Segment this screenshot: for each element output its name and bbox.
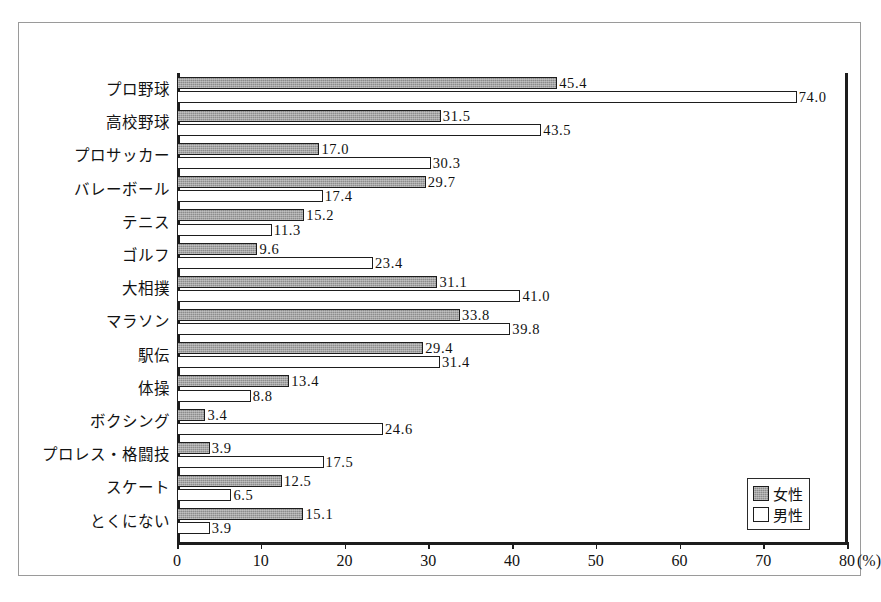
bar-value-label: 31.1: [439, 273, 467, 290]
x-tick-mark: [177, 542, 179, 549]
bar-value-label: 6.5: [233, 487, 253, 504]
bar-value-label: 3.9: [212, 520, 232, 537]
bar-value-label: 17.0: [321, 140, 349, 157]
x-tick-mark: [847, 542, 849, 549]
x-tick-label: 40: [504, 552, 520, 570]
x-tick-label: 0: [173, 552, 181, 570]
bar-value-label: 15.2: [306, 207, 334, 224]
bar-value-label: 12.5: [284, 472, 312, 489]
bar-row: 体操13.48.8: [177, 373, 849, 406]
bar-value-label: 45.4: [559, 74, 587, 91]
bar-value-label: 8.8: [253, 387, 273, 404]
category-label: とくにない: [20, 511, 170, 533]
bar-value-label: 29.7: [428, 174, 456, 191]
bar-value-label: 33.8: [462, 306, 490, 323]
bar-male: 17.4: [177, 190, 323, 202]
bar-row: バレーボール29.717.4: [177, 174, 849, 207]
legend-item-female: 女性: [753, 483, 803, 504]
bar-female: 3.9: [177, 442, 210, 454]
legend-label-male: 男性: [773, 504, 803, 525]
x-tick-mark: [763, 542, 765, 549]
bar-row: マラソン33.839.8: [177, 306, 849, 339]
bar-value-label: 31.5: [443, 107, 471, 124]
category-label: スケート: [20, 477, 170, 499]
category-label: 高校野球: [20, 112, 170, 134]
x-tick-mark: [345, 542, 347, 549]
category-label: 体操: [20, 378, 170, 400]
bar-value-label: 24.6: [385, 420, 413, 437]
bar-row: ボクシング3.424.6: [177, 406, 849, 439]
category-label: プロ野球: [20, 79, 170, 101]
bar-female: 45.4: [177, 77, 557, 89]
category-label: 大相撲: [20, 278, 170, 300]
legend-swatch-female-icon: [753, 486, 769, 501]
bar-male: 31.4: [177, 356, 440, 368]
bar-value-label: 43.5: [543, 121, 571, 138]
x-axis-unit-label: (%): [857, 552, 881, 570]
bar-female: 13.4: [177, 375, 289, 387]
x-tick-label: 30: [420, 552, 436, 570]
bar-female: 12.5: [177, 475, 282, 487]
bar-female: 33.8: [177, 309, 460, 321]
x-tick-mark: [261, 542, 263, 549]
bar-row: 高校野球31.543.5: [177, 107, 849, 140]
bar-male: 23.4: [177, 257, 373, 269]
bar-female: 29.7: [177, 176, 426, 188]
bar-row: プロレス・格闘技3.917.5: [177, 439, 849, 472]
x-tick-label: 10: [253, 552, 269, 570]
x-tick-mark: [512, 542, 514, 549]
bar-value-label: 17.5: [326, 453, 354, 470]
bar-male: 30.3: [177, 157, 431, 169]
bar-row: プロサッカー17.030.3: [177, 140, 849, 173]
bar-value-label: 13.4: [291, 373, 319, 390]
chart-legend: 女性 男性: [747, 478, 810, 530]
bar-male: 24.6: [177, 423, 383, 435]
bar-value-label: 3.9: [212, 439, 232, 456]
x-tick-label: 60: [672, 552, 688, 570]
bar-value-label: 39.8: [512, 321, 540, 338]
bar-male: 6.5: [177, 489, 231, 501]
bar-male: 11.3: [177, 224, 272, 236]
bar-male: 39.8: [177, 323, 510, 335]
bar-female: 31.1: [177, 276, 437, 288]
bar-female: 31.5: [177, 110, 441, 122]
x-tick-label: 80: [839, 552, 855, 570]
bar-row: 大相撲31.141.0: [177, 273, 849, 306]
bar-female: 15.2: [177, 209, 304, 221]
x-tick-mark: [428, 542, 430, 549]
category-label: マラソン: [20, 311, 170, 333]
x-tick-mark: [596, 542, 598, 549]
bar-male: 43.5: [177, 124, 541, 136]
bar-male: 8.8: [177, 390, 251, 402]
x-tick-mark: [680, 542, 682, 549]
bar-male: 3.9: [177, 522, 210, 534]
bar-value-label: 11.3: [274, 221, 301, 238]
bar-row: 駅伝29.431.4: [177, 340, 849, 373]
bar-row: テニス15.211.3: [177, 207, 849, 240]
chart-plot-area: プロ野球45.474.0高校野球31.543.5プロサッカー17.030.3バレ…: [177, 73, 847, 544]
bar-value-label: 41.0: [522, 287, 550, 304]
bar-value-label: 17.4: [325, 188, 353, 205]
x-tick-label: 50: [588, 552, 604, 570]
bar-row: ゴルフ9.623.4: [177, 240, 849, 273]
category-label: プロレス・格闘技: [20, 444, 170, 466]
x-tick-label: 20: [337, 552, 353, 570]
category-label: ゴルフ: [20, 245, 170, 267]
bar-value-label: 9.6: [259, 240, 279, 257]
category-label: バレーボール: [20, 179, 170, 201]
legend-swatch-male-icon: [753, 507, 769, 522]
bar-female: 9.6: [177, 243, 257, 255]
bar-row: プロ野球45.474.0: [177, 74, 849, 107]
bar-male: 74.0: [177, 91, 797, 103]
bar-value-label: 15.1: [305, 506, 333, 523]
category-label: プロサッカー: [20, 145, 170, 167]
bar-female: 17.0: [177, 143, 319, 155]
bar-value-label: 23.4: [375, 254, 403, 271]
bar-female: 15.1: [177, 508, 303, 520]
category-label: ボクシング: [20, 411, 170, 433]
bar-value-label: 74.0: [799, 88, 827, 105]
category-label: 駅伝: [20, 345, 170, 367]
bar-male: 41.0: [177, 290, 520, 302]
bar-female: 29.4: [177, 342, 423, 354]
legend-item-male: 男性: [753, 504, 803, 525]
